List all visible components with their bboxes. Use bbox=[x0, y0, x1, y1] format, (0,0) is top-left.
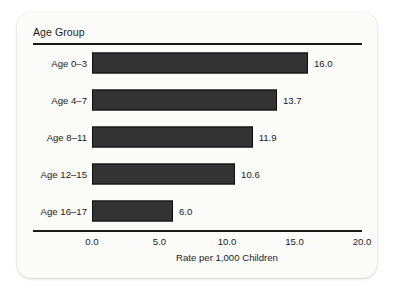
bar bbox=[92, 89, 277, 110]
bar-category-label: Age 16–17 bbox=[24, 206, 87, 217]
plot-bottom-rule bbox=[33, 230, 362, 232]
bar-category-label: Age 0–3 bbox=[24, 57, 87, 68]
bar-row: Age 8–1111.9 bbox=[0, 118, 394, 155]
chart-figure: Age Group Age 0–316.0Age 4–713.7Age 8–11… bbox=[0, 0, 394, 289]
bar-category-label: Age 8–11 bbox=[24, 131, 87, 142]
bar-value-label: 10.6 bbox=[241, 169, 260, 180]
bars-container: Age 0–316.0Age 4–713.7Age 8–1111.9Age 12… bbox=[0, 44, 394, 230]
category-axis-title: Age Group bbox=[33, 26, 85, 38]
x-tick-label: 5.0 bbox=[140, 236, 180, 247]
x-tick-label: 10.0 bbox=[207, 236, 247, 247]
bar bbox=[92, 126, 253, 147]
bar-row: Age 4–713.7 bbox=[0, 81, 394, 118]
bar bbox=[92, 201, 173, 222]
bar-row: Age 16–176.0 bbox=[0, 193, 394, 230]
bar-value-label: 6.0 bbox=[179, 206, 192, 217]
x-tick-label: 20.0 bbox=[342, 236, 382, 247]
bar-category-label: Age 4–7 bbox=[24, 94, 87, 105]
x-tick-label: 15.0 bbox=[275, 236, 315, 247]
bar-row: Age 12–1510.6 bbox=[0, 156, 394, 193]
bar-value-label: 16.0 bbox=[314, 57, 333, 68]
x-axis-label: Rate per 1,000 Children bbox=[92, 252, 362, 263]
bar bbox=[92, 164, 235, 185]
bar-value-label: 11.9 bbox=[259, 131, 277, 142]
bar-category-label: Age 12–15 bbox=[24, 169, 87, 180]
x-tick-label: 0.0 bbox=[72, 236, 112, 247]
bar bbox=[92, 52, 308, 73]
bar-row: Age 0–316.0 bbox=[0, 44, 394, 81]
bar-value-label: 13.7 bbox=[283, 94, 302, 105]
